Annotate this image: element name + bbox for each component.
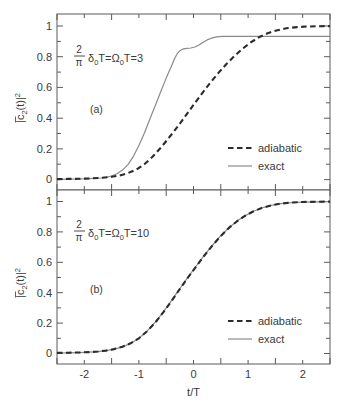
panel-a-tail: T=3 [124, 52, 143, 64]
xtick-3: 1 [245, 368, 251, 380]
panel-b-frac-denominator: π [76, 232, 83, 243]
plot-svg: 0 0.2 0.4 0.6 0.8 1 |c2(t)|2 2 π δ0 [0, 0, 345, 409]
ylabel-sup: 2 [13, 93, 22, 97]
figure-container: 0 0.2 0.4 0.6 0.8 1 |c2(t)|2 2 π δ0 [0, 0, 345, 409]
ylabel-b-sup: 2 [13, 268, 22, 272]
xtick-1: -1 [134, 368, 144, 380]
panel-b-ytick-4: 0.8 [37, 226, 52, 238]
panel-a-ytick-labels: 0 0.2 0.4 0.6 0.8 1 [37, 20, 52, 186]
panel-a-tag: (a) [90, 103, 103, 115]
panel-a-ytick-4: 0.8 [37, 51, 52, 63]
panel-b-frame [57, 190, 330, 364]
panel-a-ylabel: |c2(t)|2 [13, 93, 29, 123]
legend-label-exact: exact [258, 160, 284, 172]
panel-b: 0 0.2 0.4 0.6 0.8 1 |c2(t)|2 2 π δ0T=Ω0T… [13, 190, 330, 364]
legend-b-label-adiabatic: adiabatic [258, 315, 303, 327]
panel-b-ylabel: |c2(t)|2 [13, 268, 29, 298]
panel-a-ytick-3: 0.6 [37, 81, 52, 93]
xtick-0: -2 [79, 368, 89, 380]
panel-a-frame [57, 14, 330, 190]
panel-b-ytick-2: 0.4 [37, 287, 52, 299]
xtick-2: 0 [190, 368, 196, 380]
legend-b-label-exact: exact [258, 333, 284, 345]
x-axis-label: t/T [187, 386, 200, 398]
panel-b-tail: T=10 [124, 227, 149, 239]
panel-a-mid: T=Ω [98, 52, 119, 64]
panel-a-ytick-1: 0.2 [37, 143, 52, 155]
panel-a-frac-denominator: π [76, 57, 83, 68]
panel-b-frac-numerator: 2 [76, 219, 82, 230]
panel-b-ytick-5: 1 [46, 195, 52, 207]
ylabel-b-mid: (t)| [14, 272, 26, 285]
panel-a-ytick-2: 0.4 [37, 112, 52, 124]
xtick-4: 2 [300, 368, 306, 380]
panel-a-ytick-5: 1 [46, 20, 52, 32]
panel-a: 0 0.2 0.4 0.6 0.8 1 |c2(t)|2 2 π δ0 [13, 14, 330, 190]
panel-b-ytick-labels: 0 0.2 0.4 0.6 0.8 1 [37, 195, 52, 359]
panel-a-ytick-0: 0 [46, 173, 52, 185]
panel-b-tag: (b) [90, 283, 103, 295]
panel-a-frac-numerator: 2 [76, 44, 82, 55]
xtick-labels: -2 -1 0 1 2 [79, 368, 305, 380]
panel-b-ytick-0: 0 [46, 347, 52, 359]
panel-b-ytick-1: 0.2 [37, 317, 52, 329]
legend-label-adiabatic: adiabatic [258, 142, 303, 154]
panel-b-ytick-3: 0.6 [37, 256, 52, 268]
ylabel-mid: (t)| [14, 97, 26, 110]
panel-b-mid: T=Ω [98, 227, 119, 239]
